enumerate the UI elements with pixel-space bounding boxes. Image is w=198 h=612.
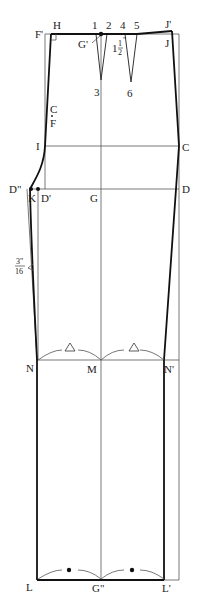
triangle-icon <box>65 343 75 351</box>
label-c-cf: C <box>50 103 57 115</box>
label-dart-num: 1 <box>118 39 122 48</box>
label-offset-den: 16 <box>15 267 23 276</box>
label-f-prime: F' <box>35 28 43 40</box>
label-n-prime: N' <box>164 363 174 375</box>
label-dart-whole: 1 <box>112 42 118 54</box>
label-h: H <box>53 19 61 31</box>
label-offset-num: 3" <box>16 257 23 266</box>
dot-icon <box>130 568 134 572</box>
pattern-diagram: F' H 1 2 G' 3 4 5 6 J' J 1 1 2 " C F I C… <box>0 0 198 612</box>
label-f-cf: F <box>50 117 56 129</box>
label-d: D <box>182 183 190 195</box>
construction-lines <box>27 34 179 580</box>
label-c: C <box>182 141 189 153</box>
label-5: 5 <box>134 19 140 31</box>
label-1: 1 <box>92 19 98 31</box>
label-dart-den: 2 <box>118 48 122 57</box>
label-n: N <box>26 362 34 374</box>
label-l: L <box>26 581 33 593</box>
label-l-prime: L' <box>162 582 171 594</box>
label-6: 6 <box>127 87 133 99</box>
label-k: K <box>28 192 36 204</box>
label-3: 3 <box>94 86 100 98</box>
label-j: J <box>165 37 170 49</box>
label-g: G <box>90 192 98 204</box>
label-d-dprime: D" <box>9 183 21 195</box>
label-g-prime: G' <box>78 38 88 50</box>
label-m: M <box>87 363 97 375</box>
label-j-prime: J' <box>165 18 171 30</box>
label-d-prime: D' <box>41 192 51 204</box>
label-i: I <box>36 140 40 152</box>
label-2: 2 <box>106 19 112 31</box>
triangle-icon <box>129 343 139 351</box>
label-g-dprime: G" <box>92 582 104 594</box>
label-dart-unit: " <box>123 36 126 45</box>
label-4: 4 <box>120 19 126 31</box>
dot-icon <box>67 568 71 572</box>
